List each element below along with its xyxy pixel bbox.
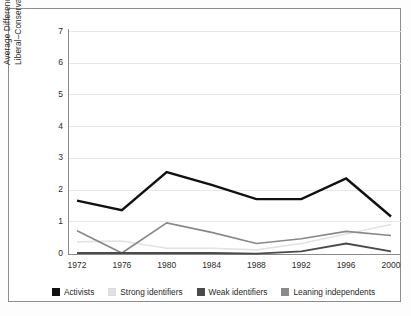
x-tick-label: 1976 — [112, 260, 131, 270]
x-tick-label: 1972 — [68, 260, 87, 270]
legend-item[interactable]: Activists — [52, 287, 94, 297]
x-tick-label: 1992 — [292, 260, 311, 270]
legend-item[interactable]: Weak identifiers — [197, 287, 268, 297]
y-axis-title-line2: Liberal–Conservative 7-Point Scale — [14, 0, 25, 65]
legend-swatch-icon — [281, 288, 289, 296]
y-tick-label: 4 — [47, 122, 63, 131]
series-line — [77, 172, 391, 216]
x-tick-label: 1996 — [337, 260, 356, 270]
y-tick-label: 1 — [47, 217, 63, 226]
legend-swatch-icon — [197, 288, 205, 296]
chart-frame: Average Difference on the Liberal–Conser… — [8, 8, 401, 302]
legend-swatch-icon — [108, 288, 116, 296]
y-axis-tick-labels: 76543210 — [45, 9, 63, 316]
legend-item[interactable]: Leaning independents — [281, 287, 375, 297]
x-tick-label: 1984 — [202, 260, 221, 270]
y-tick-label: 7 — [47, 27, 63, 36]
legend-label: Weak identifiers — [209, 287, 268, 297]
series-lines — [69, 31, 401, 253]
x-tick-label: 1988 — [247, 260, 266, 270]
legend-label: Strong identifiers — [120, 287, 182, 297]
y-tick-label: 5 — [47, 90, 63, 99]
x-axis-tick-labels: 19721976198019841988199219962000 — [69, 260, 401, 274]
legend-item[interactable]: Strong identifiers — [108, 287, 182, 297]
plot-area — [69, 31, 401, 253]
chart-legend: ActivistsStrong identifiersWeak identifi… — [18, 281, 409, 303]
y-axis-title: Average Difference on the Liberal–Conser… — [3, 0, 25, 65]
y-axis-title-line1: Average Difference on the — [3, 0, 14, 65]
figure-canvas: Average Difference on the Liberal–Conser… — [0, 0, 411, 316]
y-tick-label: 2 — [47, 185, 63, 194]
x-tick-label: 2000 — [382, 260, 401, 270]
legend-label: Leaning independents — [293, 287, 375, 297]
y-tick-label: 6 — [47, 58, 63, 67]
x-tick-label: 1980 — [157, 260, 176, 270]
legend-swatch-icon — [52, 288, 60, 296]
y-tick-label: 3 — [47, 153, 63, 162]
legend-label: Activists — [64, 287, 94, 297]
y-tick-label: 0 — [47, 249, 63, 258]
